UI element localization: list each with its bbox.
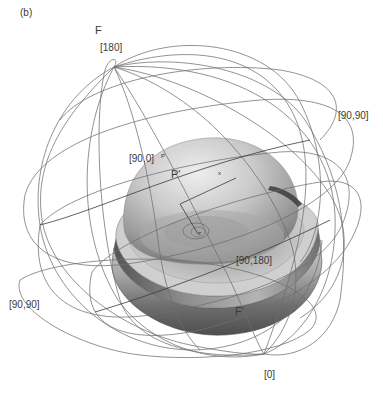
label-node-90-180: [90,180] <box>236 256 272 266</box>
panel-label: (b) <box>20 8 32 18</box>
stereographic-sphere-diagram <box>0 0 383 394</box>
label-left-90-90: [90,90] <box>9 300 40 310</box>
label-P-prime: P' <box>171 169 180 180</box>
label-pole-180: [180] <box>100 43 122 53</box>
label-F-prime: F' <box>235 306 244 317</box>
label-axis-z: z <box>198 230 201 236</box>
label-P-small: P <box>161 153 165 159</box>
label-pole-0: [0] <box>264 370 275 380</box>
label-node-90-0: [90,0] <box>129 154 154 164</box>
label-F: F <box>95 25 102 36</box>
label-right-90-90: [90,90] <box>338 111 369 121</box>
label-axis-x: x <box>218 170 221 176</box>
great-circle-14 <box>60 67 336 140</box>
